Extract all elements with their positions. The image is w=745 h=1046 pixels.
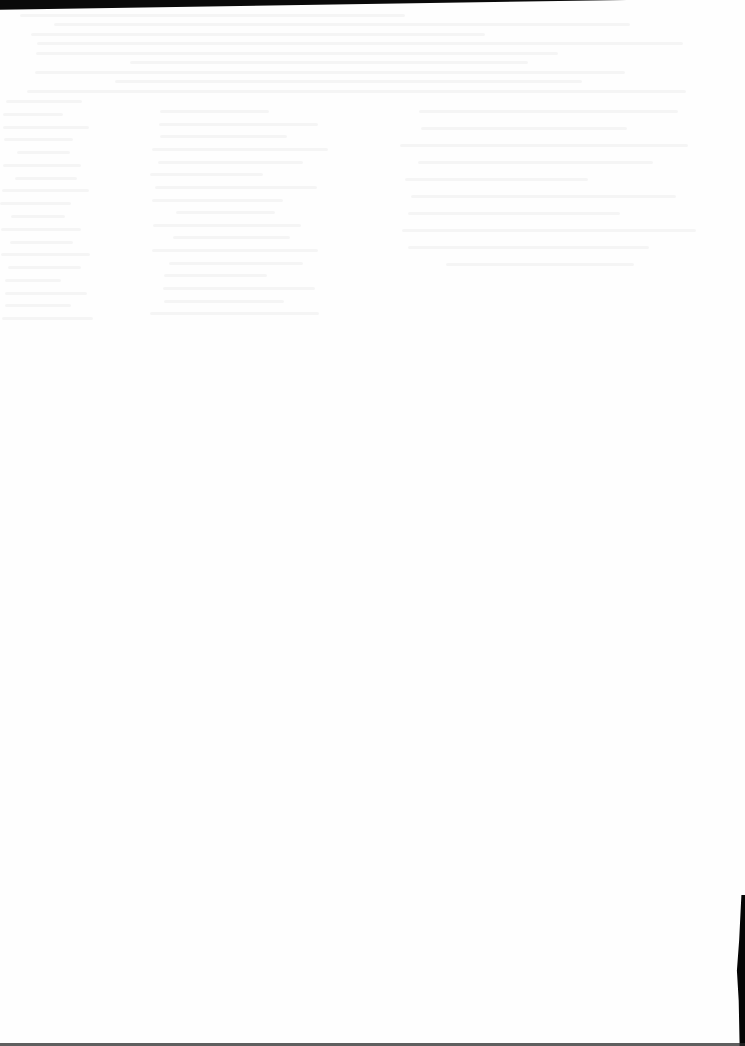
- bleed-through-smudge: [2, 189, 90, 192]
- bleed-through-smudge: [419, 110, 678, 113]
- bleed-through-smudge: [164, 300, 284, 303]
- bleed-through-smudge: [164, 274, 267, 277]
- bleed-through-smudge: [150, 312, 319, 315]
- bleed-through-smudge: [5, 292, 87, 295]
- bleed-through-smudge: [36, 52, 558, 55]
- bleed-through-smudge: [115, 80, 582, 83]
- bleed-through-smudge: [152, 148, 328, 151]
- bleed-through-smudge: [152, 249, 318, 252]
- bleed-through-smudge: [405, 178, 588, 181]
- scan-border-right: [736, 895, 745, 1046]
- bleed-through-smudge: [173, 236, 290, 239]
- bleed-through-smudge: [160, 110, 270, 113]
- bleed-through-smudge: [3, 164, 81, 167]
- bleed-through-smudge: [408, 246, 649, 249]
- bleed-through-smudge: [1, 228, 81, 231]
- bleed-through-smudge: [8, 266, 81, 269]
- bleed-through-smudge: [54, 23, 631, 26]
- bleed-through-smudge: [3, 126, 89, 129]
- bleed-through-smudge: [158, 161, 303, 164]
- bleed-through-smudge: [160, 135, 287, 138]
- bleed-through-smudge: [155, 186, 317, 189]
- bleed-through-smudge: [10, 241, 73, 244]
- bleed-through-smudge: [163, 287, 315, 290]
- bleed-through-smudge: [421, 127, 627, 130]
- bleed-through-smudge: [400, 144, 688, 147]
- bleed-through-smudge: [20, 14, 405, 17]
- scan-border-top: [0, 0, 745, 10]
- bleed-through-smudge: [411, 195, 676, 198]
- bleed-through-smudge: [5, 304, 70, 307]
- bleed-through-smudge: [31, 33, 484, 36]
- bleed-through-smudge: [152, 199, 283, 202]
- bleed-through-smudge: [130, 61, 529, 64]
- bleed-through-smudge: [150, 173, 263, 176]
- bleed-through-smudge: [35, 71, 625, 74]
- bleed-through-smudge: [5, 279, 61, 282]
- bleed-through-smudge: [176, 211, 275, 214]
- bleed-through-smudge: [402, 229, 696, 232]
- bleed-through-smudge: [4, 138, 73, 141]
- bleed-through-smudge: [17, 151, 69, 154]
- scanned-page: [0, 0, 745, 1046]
- bleed-through-smudge: [6, 100, 82, 103]
- bleed-through-smudge: [0, 202, 71, 205]
- bleed-through-smudge: [408, 212, 620, 215]
- bleed-through-smudge: [446, 263, 634, 266]
- bleed-through-smudge: [15, 177, 77, 180]
- bleed-through-smudge: [169, 262, 303, 265]
- bleed-through-smudge: [153, 224, 301, 227]
- bleed-through-smudge: [37, 42, 682, 45]
- bleed-through-smudge: [11, 215, 65, 218]
- bleed-through-smudge: [3, 113, 63, 116]
- bleed-through-smudge: [27, 90, 686, 93]
- bleed-through-smudge: [159, 123, 318, 126]
- bleed-through-smudge: [1, 253, 90, 256]
- bleed-through-smudge: [418, 161, 653, 164]
- bleed-through-smudge: [2, 317, 93, 320]
